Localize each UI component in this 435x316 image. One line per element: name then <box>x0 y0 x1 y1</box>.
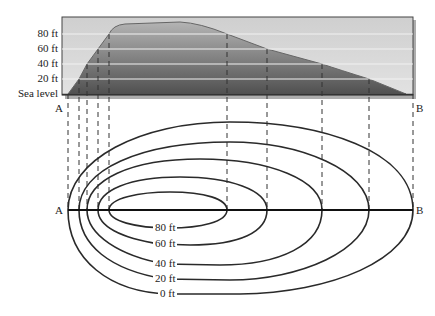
y-label-sea-level: Sea level <box>2 88 58 99</box>
contour-label-40ft: 40 ft <box>153 258 177 269</box>
profile-endpoint-a: A <box>55 103 63 114</box>
y-label-60ft: 60 ft <box>2 43 58 54</box>
contour-40ft <box>87 159 322 265</box>
contour-label-20ft: 20 ft <box>153 273 177 284</box>
topographic-diagram <box>0 0 435 316</box>
contour-0ft <box>68 122 413 294</box>
map-endpoint-b: B <box>416 205 423 216</box>
profile-endpoint-b: B <box>416 103 423 114</box>
contour-label-0ft: 0 ft <box>158 288 177 299</box>
map-endpoint-a: A <box>55 205 63 216</box>
y-label-80ft: 80 ft <box>2 28 58 39</box>
contour-label-60ft: 60 ft <box>153 238 177 249</box>
contour-lines <box>68 122 413 294</box>
y-label-20ft: 20 ft <box>2 73 58 84</box>
contour-label-80ft: 80 ft <box>153 222 177 233</box>
y-label-40ft: 40 ft <box>2 58 58 69</box>
